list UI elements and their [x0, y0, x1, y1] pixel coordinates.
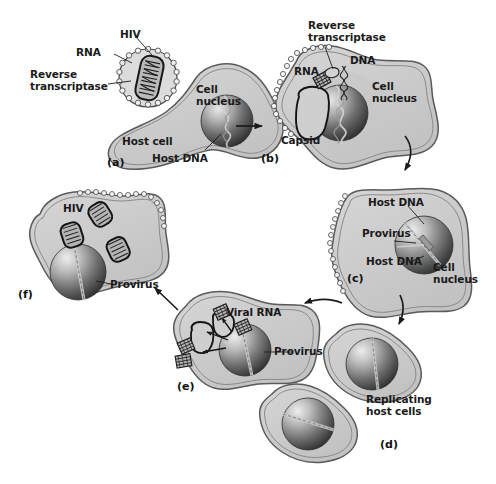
- panel-c-label-host-dna-bottom: Host DNA: [366, 256, 422, 268]
- panel-d-cell-upper: [324, 324, 422, 402]
- panel-c-label-provirus: Provirus: [362, 228, 411, 240]
- panel-d-label-replicating-host-cells: Replicating host cells: [366, 394, 432, 417]
- panel-f-label-hiv: HIV: [63, 203, 84, 215]
- panel-a-hiv-virion: [117, 46, 180, 107]
- panel-b-label-dna: DNA: [350, 55, 375, 67]
- flow-arrow-e-to-f: [155, 288, 178, 310]
- panel-e-label-viral-rna: Viral RNA: [226, 307, 281, 319]
- panel-a-tag: (a): [107, 156, 124, 169]
- panel-b-capsid: [296, 87, 329, 140]
- panel-a-label-cell-nucleus: Cell nucleus: [196, 84, 241, 107]
- hiv-replication-cycle-figure: HIV RNA Reverse transcriptase Cell nucle…: [0, 0, 496, 484]
- panel-a-label-host-dna: Host DNA: [152, 153, 208, 165]
- panel-c-label-cell-nucleus: Cell nucleus: [433, 262, 478, 285]
- panel-b-reverse-transcriptase-enzyme: [325, 68, 339, 78]
- flow-arrow-d-to-e: [305, 300, 342, 303]
- panel-e-tag: (e): [177, 380, 195, 393]
- panel-b-label-reverse-transcriptase: Reverse transcriptase: [308, 20, 386, 43]
- panel-e-label-provirus: Provirus: [274, 346, 323, 358]
- panel-f-tag: (f): [18, 288, 33, 301]
- panel-a-label-rna: RNA: [76, 47, 101, 59]
- panel-c-tag: (c): [347, 272, 364, 285]
- panel-a-label-hiv: HIV: [120, 29, 141, 41]
- panel-f-label-provirus: Provirus: [110, 279, 159, 291]
- panel-b-label-rna: RNA: [294, 66, 319, 78]
- panel-f-nucleus: [50, 244, 106, 300]
- panel-b-tag: (b): [261, 152, 279, 165]
- panel-b-label-cell-nucleus: Cell nucleus: [372, 81, 417, 104]
- panel-b-label-capsid: Capsid: [281, 135, 320, 147]
- panel-d-tag: (d): [380, 438, 398, 451]
- panel-a-label-host-cell: Host cell: [122, 136, 173, 148]
- panel-c-label-host-dna-top: Host DNA: [368, 197, 424, 209]
- panel-a-label-reverse-transcriptase: Reverse transcriptase: [30, 69, 108, 92]
- panel-d-cell-lower: [260, 384, 358, 462]
